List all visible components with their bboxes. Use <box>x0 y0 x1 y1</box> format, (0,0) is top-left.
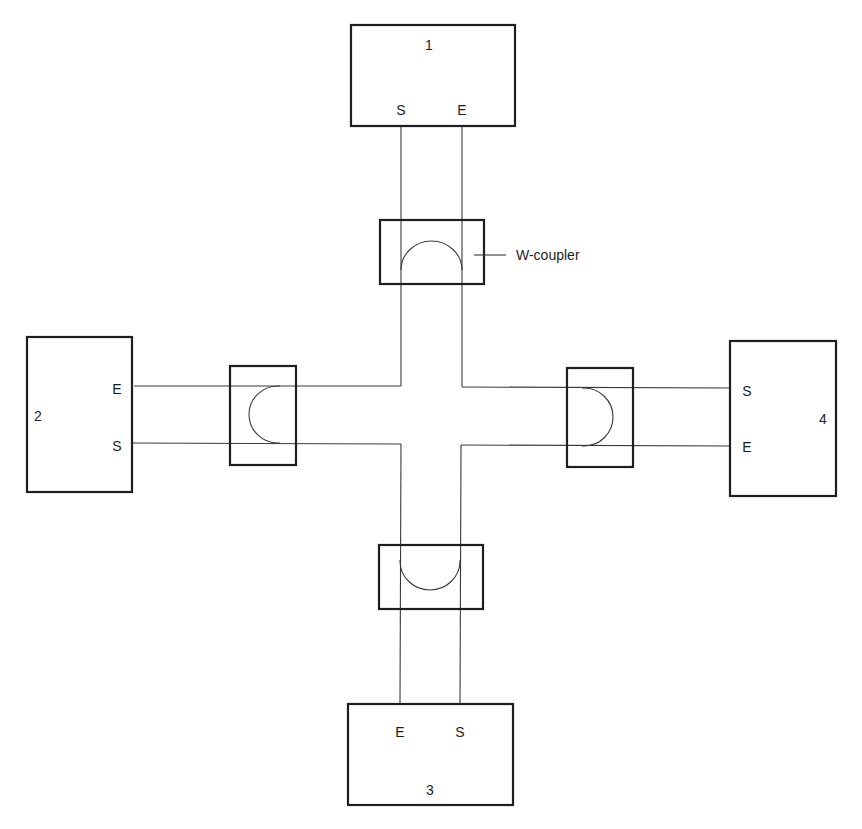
node-4-label: 4 <box>819 411 827 427</box>
coupler-left-box <box>230 366 296 465</box>
wire-node2-s <box>132 443 401 444</box>
wire-node3-e <box>400 444 401 704</box>
coupler-bottom-box <box>379 545 483 609</box>
node-1-box <box>351 25 515 126</box>
wires <box>132 126 730 704</box>
wire-node3-s <box>460 445 461 704</box>
node-1-label: 1 <box>425 37 433 53</box>
node-4: S E 4 <box>730 341 836 496</box>
node-4-port-s: S <box>742 383 751 399</box>
w-coupler-network-diagram: 1 S E 2 E S E S 3 S E 4 W-coupler <box>0 0 862 829</box>
node-2-box <box>27 337 132 492</box>
coupler-right-arch-icon <box>582 388 613 446</box>
node-2-port-e: E <box>112 381 121 397</box>
node-1-port-e: E <box>457 102 466 118</box>
node-1-port-s: S <box>396 102 405 118</box>
coupler-left-arch-icon <box>249 386 280 443</box>
node-4-port-e: E <box>742 439 751 455</box>
node-3-port-s: S <box>455 724 464 740</box>
w-coupler-label: W-coupler <box>516 247 580 263</box>
coupler-bottom-arch-icon <box>400 560 460 590</box>
node-3-label: 3 <box>426 782 434 798</box>
node-2: 2 E S <box>27 337 132 492</box>
coupler-left <box>230 366 296 465</box>
node-3: E S 3 <box>348 704 513 805</box>
coupler-right <box>567 368 633 467</box>
node-3-port-e: E <box>395 724 404 740</box>
wire-node4-e <box>461 445 730 446</box>
node-1: 1 S E <box>351 25 515 126</box>
node-2-port-s: S <box>112 438 121 454</box>
coupler-top <box>380 220 484 284</box>
coupler-bottom <box>379 545 483 609</box>
wire-node4-s <box>462 387 730 388</box>
coupler-right-box <box>567 368 633 467</box>
coupler-top-box <box>380 220 484 284</box>
coupler-top-arch-icon <box>401 241 462 270</box>
node-2-label: 2 <box>34 408 42 424</box>
